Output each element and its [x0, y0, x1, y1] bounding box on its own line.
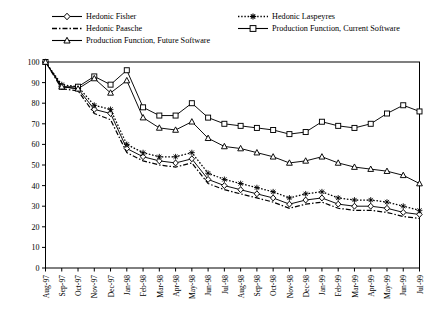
data-point-marker	[384, 199, 390, 205]
x-axis-tick-label: Sep-98	[253, 275, 262, 297]
data-point-marker	[335, 195, 341, 201]
data-point-marker	[417, 180, 423, 185]
data-point-marker	[401, 103, 406, 108]
x-axis-tick-label: Oct-98	[269, 275, 278, 296]
data-point-marker	[400, 203, 406, 209]
x-axis-tick-label: May-98	[188, 275, 197, 299]
data-point-marker	[368, 121, 373, 126]
data-point-marker	[352, 125, 357, 130]
data-point-marker	[303, 197, 308, 203]
data-point-marker	[352, 203, 357, 209]
data-point-marker	[222, 121, 227, 126]
chart-container: Hedonic Fisher Hedonic Paasche Productio…	[0, 0, 436, 315]
data-point-marker	[189, 101, 194, 106]
y-axis-tick-label: 90	[32, 79, 40, 88]
y-axis-tick-label: 0	[36, 264, 40, 273]
data-point-marker	[401, 209, 406, 215]
data-point-marker	[352, 197, 358, 203]
y-axis-tick-label: 30	[32, 202, 40, 211]
data-point-marker	[303, 130, 308, 135]
data-point-marker	[108, 82, 113, 87]
x-axis-tick-label: Mar-98	[156, 275, 165, 298]
x-axis-tick-label: Jan-98	[123, 275, 132, 295]
y-axis-tick-label: 10	[32, 243, 40, 252]
x-axis-tick-label: Oct-97	[74, 275, 83, 296]
data-point-marker	[287, 195, 293, 201]
x-axis-tick-label: Jan-99	[318, 275, 327, 295]
data-point-marker	[141, 105, 146, 110]
data-point-marker	[368, 203, 373, 209]
data-point-marker	[173, 113, 178, 118]
data-point-marker	[270, 189, 276, 195]
data-point-marker	[124, 68, 129, 73]
x-axis-tick-label: Nov-98	[286, 275, 295, 298]
data-point-marker	[205, 170, 211, 176]
data-point-marker	[206, 115, 211, 120]
data-point-marker	[254, 191, 259, 197]
chart-plot-area: 0102030405060708090100Aug-97Sep-97Oct-97…	[0, 0, 436, 315]
x-axis-tick-label: Jun-98	[204, 275, 213, 296]
series-production-function-current-software	[43, 60, 422, 137]
data-point-marker	[238, 123, 243, 128]
x-axis-tick-label: Aug-98	[237, 275, 246, 298]
x-axis-tick-label: Jul-99	[416, 275, 425, 294]
data-point-marker	[221, 143, 227, 148]
data-point-marker	[384, 111, 389, 116]
series-line	[46, 62, 420, 134]
x-axis-tick-label: Dec-97	[107, 275, 116, 298]
series-hedonic-laspeyres	[43, 59, 423, 213]
y-axis-tick-label: 50	[32, 161, 40, 170]
data-point-marker	[287, 132, 292, 137]
x-axis-tick-label: Jul-98	[221, 275, 230, 294]
data-point-marker	[140, 115, 146, 120]
data-point-marker	[384, 205, 389, 211]
x-axis-tick-label: Feb-98	[139, 275, 148, 297]
x-axis-tick-label: Sep-97	[58, 275, 67, 297]
data-point-marker	[156, 125, 162, 130]
y-axis-tick-label: 20	[32, 223, 40, 232]
data-point-marker	[238, 181, 244, 187]
data-point-marker	[417, 207, 423, 213]
data-point-marker	[108, 106, 114, 112]
data-point-marker	[270, 195, 275, 201]
y-axis-tick-label: 40	[32, 182, 40, 191]
data-point-marker	[319, 119, 324, 124]
data-point-marker	[173, 154, 179, 160]
y-axis-tick-label: 80	[32, 99, 40, 108]
data-point-marker	[254, 185, 260, 191]
data-point-marker	[417, 109, 422, 114]
x-axis-tick-label: Jun-99	[399, 275, 408, 296]
x-axis-tick-label: May-99	[383, 275, 392, 299]
x-axis-tick-label: Apr-98	[172, 275, 181, 297]
y-axis-tick-label: 70	[32, 120, 40, 129]
x-axis-tick-label: Mar-99	[351, 275, 360, 298]
plot-frame	[46, 62, 420, 268]
data-point-marker	[254, 125, 259, 130]
data-point-marker	[303, 191, 309, 197]
data-point-marker	[271, 127, 276, 132]
data-point-marker	[221, 177, 227, 183]
data-point-marker	[336, 123, 341, 128]
y-axis-tick-label: 60	[32, 140, 40, 149]
data-point-marker	[173, 160, 178, 166]
series-production-function-future-software	[43, 59, 423, 186]
data-point-marker	[319, 195, 324, 201]
data-point-marker	[157, 113, 162, 118]
x-axis-tick-label: Apr-99	[367, 275, 376, 297]
x-axis-tick-label: Nov-97	[90, 275, 99, 298]
data-point-marker	[319, 154, 325, 159]
data-point-marker	[287, 201, 292, 207]
data-point-marker	[222, 183, 227, 189]
x-axis-tick-label: Feb-99	[334, 275, 343, 297]
data-point-marker	[189, 119, 195, 124]
data-point-marker	[319, 189, 325, 195]
data-point-marker	[156, 154, 162, 160]
data-point-marker	[189, 150, 195, 156]
data-point-marker	[91, 102, 97, 108]
data-point-marker	[124, 142, 130, 148]
y-axis-tick-label: 100	[28, 58, 40, 67]
x-axis-tick-label: Aug-97	[42, 275, 51, 298]
data-point-marker	[140, 150, 146, 156]
data-point-marker	[124, 77, 130, 82]
data-point-marker	[238, 187, 243, 193]
